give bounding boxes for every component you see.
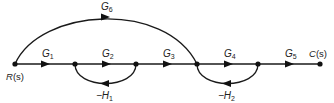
arrow-g1	[41, 61, 50, 68]
label-g4: G4	[224, 48, 236, 60]
node-4	[194, 61, 199, 66]
arrow-g4	[224, 61, 233, 68]
arrow-g5	[285, 61, 294, 68]
label-g2: G2	[102, 48, 114, 60]
branch-h1-loop	[75, 64, 136, 84]
label-output-cs: C(s)	[309, 48, 327, 59]
label-g1: G1	[42, 48, 54, 60]
label-g5: G5	[285, 48, 297, 60]
node-input	[12, 61, 17, 66]
label-g6: G6	[101, 1, 113, 13]
arrow-g3	[163, 61, 172, 68]
label-h1: −H1	[96, 90, 113, 102]
signal-flow-graph: G1 G2 G3 G4 G5 G6 −H1 −H2 R(s) C(s)	[0, 0, 334, 103]
arrow-h1	[100, 80, 109, 87]
label-g3: G3	[163, 48, 175, 60]
arrow-g2	[102, 61, 111, 68]
node-2	[72, 61, 77, 66]
node-3	[133, 61, 138, 66]
arrow-h2	[222, 80, 231, 87]
node-5	[255, 61, 260, 66]
branch-h2-loop	[197, 64, 258, 84]
node-output	[317, 61, 322, 66]
label-input-rs: R(s)	[6, 71, 24, 82]
label-h2: −H2	[218, 90, 235, 102]
